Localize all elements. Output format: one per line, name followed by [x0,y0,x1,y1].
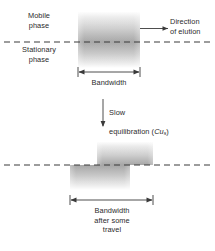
slow-equilibration-label: Slow equilibration (Cus) [109,98,213,148]
direction-of-elution-arrow [140,26,168,31]
bottom-panel-bands [70,142,153,191]
slow-equilibration-arrow [101,99,106,127]
closing-paren: ) [166,127,169,136]
bottom-bandwidth-label: Bandwidth after some travel [72,206,152,235]
band-broadening-figure: Mobile phase Stationary phase Direction … [0,0,215,251]
slow-equilibration-line1: Slow [109,108,213,118]
bottom-bandwidth-measure [70,195,153,205]
top-band-edge-softening [78,12,140,69]
slow-equilibration-line2: equilibration (Cus) [109,127,213,139]
direction-of-elution-label: Direction of elution [170,17,215,36]
mobile-phase-label: Mobile phase [10,11,68,30]
cu-symbol: Cu [154,127,164,136]
top-bandwidth-measure [78,67,140,77]
equilibration-text: equilibration ( [109,127,154,136]
top-panel-bands [78,12,140,69]
top-bandwidth-label: Bandwidth [74,78,144,88]
bottom-stationary-edge-softening [70,165,130,190]
stationary-phase-label: Stationary phase [8,45,70,64]
